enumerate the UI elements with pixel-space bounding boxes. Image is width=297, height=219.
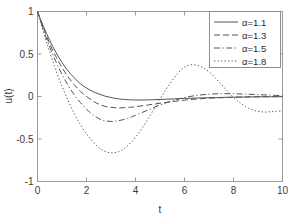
x-tick-label: 6 [182,185,188,196]
y-tick-label: 1 [28,6,34,17]
y-axis-tick-labels: 10.50-0.5-1 [16,6,34,187]
figure-container: 0246810 10.50-0.5-1 t u(t) α=1.1α=1.3α=1… [0,0,297,219]
x-tick-label: 0 [35,185,41,196]
x-tick-label: 2 [84,185,90,196]
legend-label-2: α=1.3 [242,30,266,41]
y-axis-title: u(t) [3,89,14,104]
y-tick-label: 0 [28,91,34,102]
chart-legend: α=1.1α=1.3α=1.5α=1.8 [210,12,281,68]
y-tick-label: -1 [25,176,34,187]
legend-label-4: α=1.8 [242,56,266,67]
y-tick-label: 0.5 [20,49,34,60]
x-tick-label: 10 [277,185,289,196]
x-axis-title: t [159,204,162,215]
legend-label-1: α=1.1 [242,17,266,28]
x-tick-label: 8 [231,185,237,196]
x-tick-label: 4 [133,185,139,196]
y-tick-label: -0.5 [16,134,34,145]
x-axis-tick-labels: 0246810 [35,185,289,196]
chart-canvas: 0246810 10.50-0.5-1 t u(t) α=1.1α=1.3α=1… [0,0,297,219]
legend-label-3: α=1.5 [242,43,266,54]
